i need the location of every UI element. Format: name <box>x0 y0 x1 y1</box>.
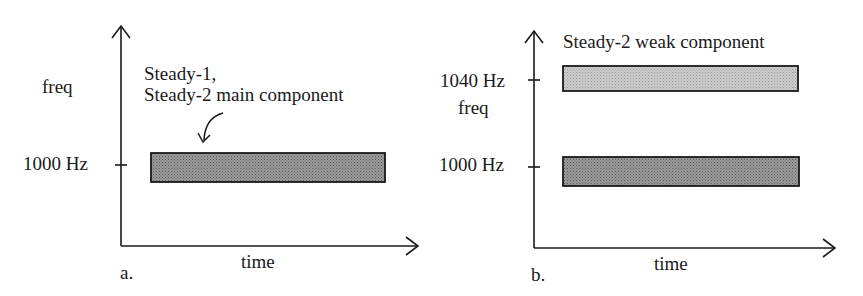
y-axis-label-b: freq <box>458 97 489 119</box>
panel-a <box>112 26 418 255</box>
annotation-line2-a: Steady-2 main component <box>144 84 343 106</box>
annotation-line1-b: Steady-2 weak component <box>563 31 765 53</box>
annotation-line1-a: Steady-1, <box>144 63 216 85</box>
tick-label-1000-a: 1000 Hz <box>23 153 88 175</box>
y-axis-label-a: freq <box>42 76 73 98</box>
bar-1040-b <box>563 66 798 91</box>
x-axis-label-b: time <box>654 253 688 275</box>
caption-b: b. <box>531 264 545 286</box>
bar-1000-a <box>151 153 385 182</box>
curved-arrow-icon <box>204 113 223 140</box>
panel-b <box>525 31 835 257</box>
x-axis-label-a: time <box>241 251 275 273</box>
caption-a: a. <box>120 262 133 284</box>
tick-label-1000-b: 1000 Hz <box>439 154 504 176</box>
tick-label-1040-b: 1040 Hz <box>440 70 505 92</box>
bar-1000-b <box>563 157 799 186</box>
